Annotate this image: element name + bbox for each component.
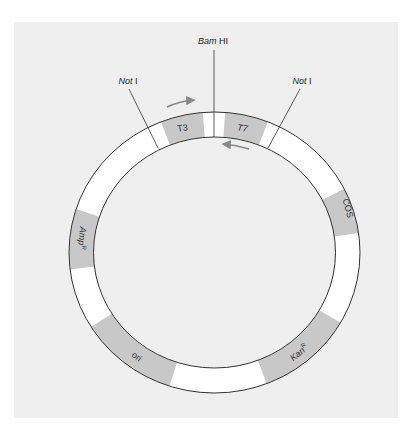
t3-promoter-arrow	[167, 100, 194, 107]
t3-label: T3	[177, 122, 189, 134]
plasmid-map: Bam HI Not I Not I T3 T7 COS KanR ori Am…	[0, 0, 419, 437]
noti-right-label: Not I	[292, 76, 311, 86]
noti-left-label: Not I	[118, 76, 137, 86]
ring-inner-edge	[94, 137, 336, 368]
bamhi-label: Bam HI	[198, 36, 228, 46]
